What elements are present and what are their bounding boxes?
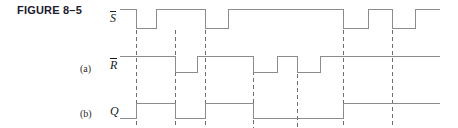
waveform-canvas: [0, 0, 458, 128]
waveform-s-bar: [120, 10, 440, 29]
figure-timing-diagram: FIGURE 8–5 (a) (b) S R Q: [0, 0, 458, 128]
